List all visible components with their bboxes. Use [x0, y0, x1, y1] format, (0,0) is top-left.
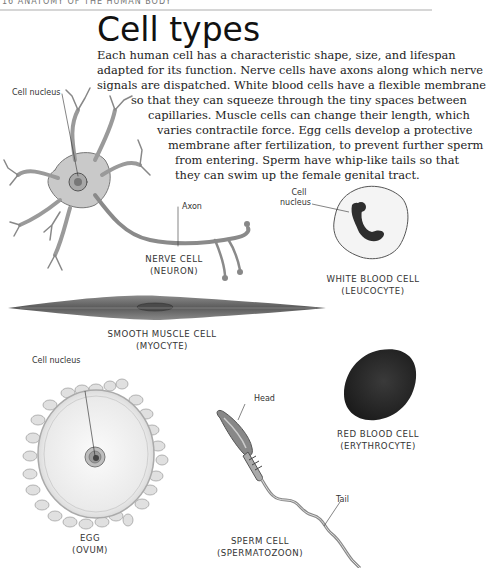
caption-line: (SPERMATOZOON): [210, 547, 310, 559]
egg-drawing: [23, 379, 168, 529]
smooth-muscle-caption: SMOOTH MUSCLE CELL (MYOCYTE): [102, 328, 222, 352]
caption-line: NERVE CELL: [122, 253, 226, 265]
red-blood-cell-drawing: [344, 349, 416, 420]
nerve-nucleus-label: Cell nucleus: [12, 88, 60, 97]
nerve-cell-caption: NERVE CELL (NEURON): [122, 253, 226, 277]
caption-line: SPERM CELL: [210, 535, 310, 547]
egg-nucleus-label: Cell nucleus: [32, 356, 80, 365]
sperm-cell-caption: SPERM CELL (SPERMATOZOON): [210, 535, 310, 559]
caption-line: (LEUCOCYTE): [318, 285, 428, 297]
wbc-nucleus-label: Cell nucleus: [280, 188, 310, 208]
caption-line: EGG: [60, 532, 120, 544]
caption-line: WHITE BLOOD CELL: [318, 273, 428, 285]
caption-line: SMOOTH MUSCLE CELL: [102, 328, 222, 340]
egg-caption: EGG (OVUM): [60, 532, 120, 556]
white-blood-cell-drawing: [312, 186, 408, 258]
red-blood-cell-caption: RED BLOOD CELL (ERYTHROCYTE): [326, 428, 430, 452]
caption-line: (NEURON): [122, 265, 226, 277]
smooth-muscle-cell-drawing: [8, 296, 326, 321]
caption-line: (ERYTHROCYTE): [326, 440, 430, 452]
axon-label: Axon: [182, 202, 202, 211]
caption-line: (OVUM): [60, 544, 120, 556]
caption-line: (MYOCYTE): [102, 340, 222, 352]
white-blood-cell-caption: WHITE BLOOD CELL (LEUCOCYTE): [318, 273, 428, 297]
sperm-tail-label: Tail: [336, 495, 349, 504]
caption-line: RED BLOOD CELL: [326, 428, 430, 440]
label-line: Cell: [280, 188, 310, 198]
sperm-head-label: Head: [254, 394, 275, 403]
label-line: nucleus: [280, 198, 310, 208]
